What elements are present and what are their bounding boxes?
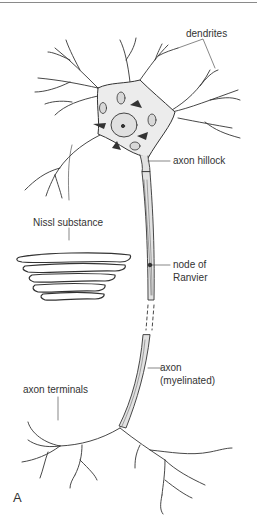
nissl-substance-er <box>17 253 131 300</box>
dendrites-upper-middle <box>120 38 178 82</box>
dendrites-lower-left <box>25 135 100 198</box>
label-dendrites: dendrites <box>186 28 227 40</box>
label-axon: axon <box>160 362 182 374</box>
label-nissl-substance: Nissl substance <box>33 217 103 229</box>
axon-hillock <box>140 155 150 172</box>
axon-myelin-lower <box>119 335 150 428</box>
node-of-ranvier <box>148 263 152 267</box>
label-axon-terminals: axon terminals <box>23 384 88 396</box>
nucleolus <box>121 124 124 127</box>
label-axon-hillock: axon hillock <box>173 155 225 167</box>
label-axon-myelinated: (myelinated) <box>160 375 215 387</box>
axon-terminals <box>22 422 232 514</box>
label-node-of-ranvier-1: node of <box>173 259 206 271</box>
panel-label: A <box>13 490 22 505</box>
dendrites-upper-left <box>35 40 98 115</box>
dendrites-right <box>172 70 240 138</box>
label-node-of-ranvier-2: Ranvier <box>173 272 207 284</box>
neuron-illustration <box>0 0 257 527</box>
